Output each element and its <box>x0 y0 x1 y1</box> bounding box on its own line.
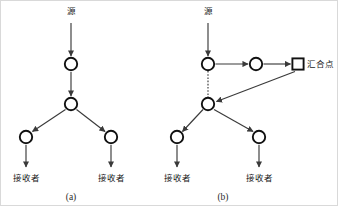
node-a-right-branch[interactable] <box>105 131 117 143</box>
receiver-b-left-label: 接收者 <box>164 173 191 183</box>
node-b-left-branch[interactable] <box>171 131 183 143</box>
receiver-b-right-label: 接收者 <box>246 173 273 183</box>
panel-a: 源 接收者 接收者 (a) <box>13 6 125 203</box>
receiver-a-right-label: 接收者 <box>98 173 125 183</box>
edge-a-middle-to-left-branch <box>33 110 66 132</box>
multicast-tree-diagram: 源 接收者 接收者 (a) 源 <box>1 1 338 206</box>
panel-caption-a: (a) <box>66 192 77 203</box>
receiver-a-left-label: 接收者 <box>13 173 40 183</box>
node-a-middle[interactable] <box>65 98 77 110</box>
edge-a-middle-to-right-branch <box>77 110 106 132</box>
node-b-middle[interactable] <box>202 98 214 110</box>
edge-b-middle-to-left-branch <box>183 110 204 132</box>
node-b-rendezvous-point[interactable] <box>292 58 303 69</box>
panel-caption-b: (b) <box>217 192 228 203</box>
node-b-right-branch[interactable] <box>253 131 265 143</box>
node-a-top[interactable] <box>65 58 77 70</box>
figure-container: 源 接收者 接收者 (a) 源 <box>0 0 338 206</box>
panel-b: 源 汇合点 接收者 接收者 (b) <box>164 6 335 203</box>
source-label-b: 源 <box>204 6 213 16</box>
edge-b-middle-to-right-branch <box>214 110 253 132</box>
source-label-a: 源 <box>67 6 76 16</box>
node-a-left-branch[interactable] <box>20 131 32 143</box>
node-b-top[interactable] <box>202 58 214 70</box>
edge-b-rendezvous-to-middle <box>217 72 296 102</box>
rendezvous-point-label: 汇合点 <box>307 59 334 69</box>
node-b-relay[interactable] <box>250 58 262 70</box>
